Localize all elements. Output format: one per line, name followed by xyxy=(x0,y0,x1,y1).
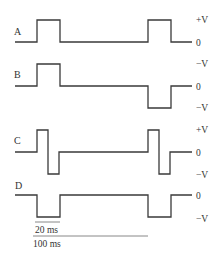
trace-c-waveform xyxy=(15,130,192,174)
trace-b-label: B xyxy=(14,69,21,80)
trace-b-level-top: −V xyxy=(196,59,208,69)
trace-b-level-low: −V xyxy=(196,103,208,113)
trace-a: A +V 0 xyxy=(14,15,208,48)
trace-c: C +V 0 −V xyxy=(14,125,208,180)
trace-d-level-zero: 0 xyxy=(196,191,201,201)
trace-b: B −V 0 −V xyxy=(14,59,208,113)
trace-c-level-zero: 0 xyxy=(196,148,201,158)
trace-c-level-high: +V xyxy=(196,125,208,135)
trace-b-waveform xyxy=(15,64,192,108)
trace-a-waveform xyxy=(15,20,192,42)
trace-d-level-low: −V xyxy=(196,214,208,224)
trace-d-label: D xyxy=(15,180,22,191)
trace-a-level-zero: 0 xyxy=(196,38,201,48)
waveform-diagram: A +V 0 B −V 0 −V C +V 0 −V D 0 −V 20 ms … xyxy=(0,0,220,263)
trace-a-label: A xyxy=(14,26,22,37)
trace-d: D 0 −V xyxy=(15,180,208,224)
trace-a-level-high: +V xyxy=(196,15,208,25)
time-scale: 20 ms 100 ms xyxy=(33,222,148,249)
trace-d-waveform xyxy=(15,195,192,217)
trace-c-level-low: −V xyxy=(196,170,208,180)
period-scale-label: 100 ms xyxy=(33,239,61,249)
trace-c-label: C xyxy=(14,135,21,146)
pulse-width-scale-label: 20 ms xyxy=(35,225,58,235)
trace-b-level-zero: 0 xyxy=(196,82,201,92)
